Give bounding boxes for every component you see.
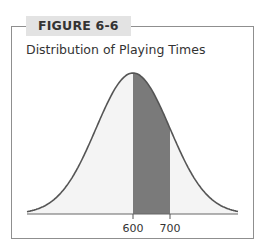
tick-label-600: 600 — [123, 222, 144, 235]
tick-label-700: 700 — [160, 222, 181, 235]
normal-curve-plot: 600 700 — [0, 0, 263, 249]
curve-area-fill — [27, 73, 238, 214]
shaded-region-600-700 — [133, 73, 170, 214]
